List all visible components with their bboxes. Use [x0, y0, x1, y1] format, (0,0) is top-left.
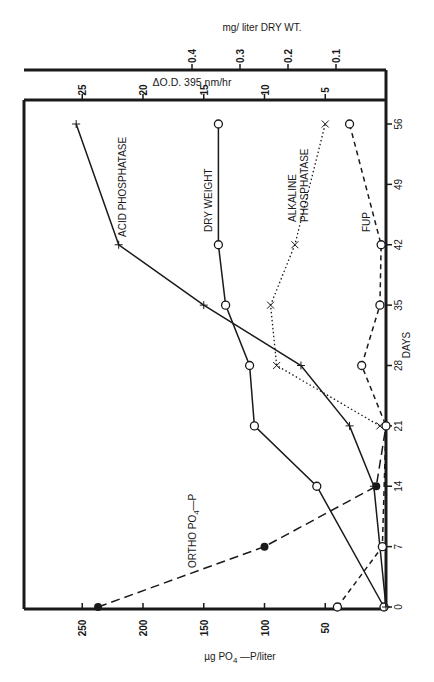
od-tick-label: 20 — [138, 84, 149, 96]
plot-frame — [24, 70, 386, 610]
day-tick-label: 56 — [393, 118, 404, 130]
po4-tick-label: 250 — [77, 619, 88, 636]
axis-ticks — [82, 64, 392, 609]
dry-weight-tick-label: 0.2 — [283, 49, 294, 63]
po4-axis-title: µg PO4 —P/liter — [204, 651, 276, 665]
po4-tick-label: 100 — [260, 619, 271, 636]
od-tick-label: 25 — [77, 84, 88, 96]
day-tick-label: 0 — [393, 604, 404, 610]
day-tick-label: 21 — [393, 420, 404, 432]
ortho-po4-label: ORTHO PO4—P — [187, 493, 201, 568]
dry-weight-tick-label: 0.4 — [187, 49, 198, 63]
od-tick-label: 10 — [260, 84, 271, 96]
fup-label: FUP — [361, 212, 372, 232]
dry-weight-tick-label: 0.1 — [331, 49, 342, 63]
series-alkaline-phosphatase — [267, 121, 383, 430]
day-tick-label: 14 — [393, 480, 404, 492]
dry-weight-label: DRY WEIGHT — [203, 168, 214, 232]
days-axis-title: DAYS — [401, 331, 412, 358]
dry-weight-tick-label: 0.3 — [235, 49, 246, 63]
alkaline-label-line2: PHOSPHATASE — [299, 148, 310, 222]
day-tick-label: 35 — [393, 299, 404, 311]
od-axis-title: ΔO.D. 395 nm/hr — [153, 76, 232, 88]
phosphatase-time-course-chart: 501001502002505101520250.10.20.30.407142… — [0, 0, 434, 682]
series-fup — [333, 120, 390, 611]
acid-phosphatase-label: ACID PHOSPHATASE — [117, 136, 128, 237]
po4-tick-label: 150 — [199, 619, 210, 636]
day-tick-label: 28 — [393, 360, 404, 372]
day-tick-label: 42 — [393, 239, 404, 251]
od-tick-label: 5 — [320, 87, 331, 93]
po4-tick-label: 50 — [320, 622, 331, 634]
dry-weight-axis-title: mg/ liter DRY WT. — [222, 22, 301, 33]
day-tick-label: 49 — [393, 178, 404, 190]
series-ortho-po4-p — [94, 422, 390, 611]
day-tick-label: 7 — [393, 543, 404, 549]
po4-tick-label: 200 — [138, 619, 149, 636]
alkaline-label-line1: ALKALINE — [287, 174, 298, 222]
